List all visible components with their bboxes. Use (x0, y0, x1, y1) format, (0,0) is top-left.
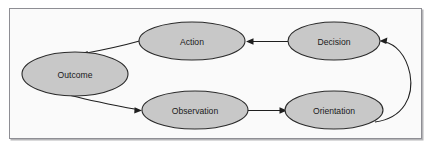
node-label-observation: Observation (172, 106, 219, 116)
edge-observation-to-orientation (248, 107, 287, 113)
edge-outcome-to-observation (71, 96, 142, 114)
node-label-orientation: Orientation (313, 106, 355, 116)
flow-diagram: Action Decision Outcome Observation Orie… (0, 0, 433, 149)
edge-decision-to-action (246, 38, 288, 44)
node-label-decision: Decision (318, 37, 351, 47)
node-orientation[interactable]: Orientation (285, 91, 383, 129)
node-label-action: Action (180, 37, 204, 47)
node-outcome[interactable]: Outcome (22, 52, 128, 96)
node-action[interactable]: Action (139, 22, 245, 60)
node-label-outcome: Outcome (58, 70, 93, 80)
node-decision[interactable]: Decision (288, 22, 380, 60)
diagram-canvas: Action Decision Outcome Observation Orie… (0, 0, 433, 149)
node-observation[interactable]: Observation (142, 91, 248, 129)
